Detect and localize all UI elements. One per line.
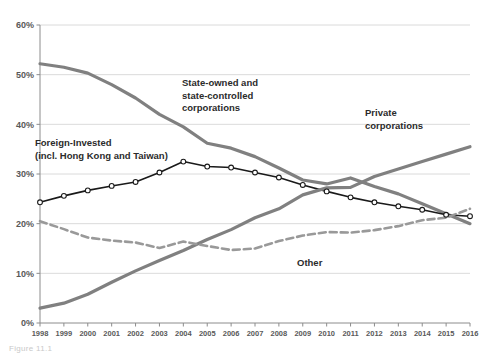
- x-tick-label: 2013: [390, 329, 407, 338]
- y-tick-label: 20%: [16, 219, 34, 229]
- line-chart: 0%10%20%30%40%50%60% 1998199920002001200…: [0, 0, 479, 357]
- x-tick-label: 2008: [271, 329, 288, 338]
- y-axis-tick-labels: 0%10%20%30%40%50%60%: [16, 20, 34, 328]
- x-tick-label: 2007: [247, 329, 264, 338]
- y-tick-label: 40%: [16, 120, 34, 130]
- x-tick-label: 2003: [151, 329, 168, 338]
- series-line-3: [40, 209, 470, 250]
- y-tick-label: 50%: [16, 70, 34, 80]
- x-tick-label: 2009: [294, 329, 311, 338]
- series-marker-1: [444, 212, 449, 217]
- x-tick-label: 2011: [342, 329, 358, 338]
- x-tick-label: 2006: [223, 329, 240, 338]
- y-tick-label: 10%: [16, 269, 34, 279]
- y-tick-label: 60%: [16, 20, 34, 30]
- series-marker-1: [61, 193, 66, 198]
- figure-caption: Figure 11.1: [9, 344, 52, 353]
- x-tick-label: 2000: [79, 329, 96, 338]
- state-owned-label: State-owned andstate-controlledcorporati…: [182, 77, 258, 113]
- series-marker-1: [348, 195, 353, 200]
- series-marker-1: [420, 207, 425, 212]
- series-marker-1: [133, 180, 138, 185]
- other-label: Other: [297, 257, 323, 268]
- series-marker-1: [205, 164, 210, 169]
- x-tick-label: 2002: [127, 329, 144, 338]
- x-tick-label: 2004: [175, 329, 193, 338]
- series-marker-1: [324, 189, 329, 194]
- x-tick-label: 2012: [366, 329, 383, 338]
- x-tick-label: 2015: [438, 329, 455, 338]
- x-tick-label: 1998: [32, 329, 49, 338]
- series-marker-1: [253, 170, 258, 175]
- series-marker-1: [300, 183, 305, 188]
- x-tick-label: 2001: [103, 329, 120, 338]
- x-axis-tick-labels: 1998199920002001200220032004200520062007…: [32, 329, 479, 338]
- y-tick-label: 30%: [16, 169, 34, 179]
- series-marker-1: [396, 204, 401, 209]
- private-corporations-label: Privatecorporations: [365, 107, 423, 131]
- x-tick-label: 2014: [414, 329, 432, 338]
- y-tick-label: 0%: [21, 318, 34, 328]
- x-tick-label: 2010: [318, 329, 335, 338]
- data-series-lines: [40, 64, 470, 308]
- series-marker-1: [181, 159, 186, 164]
- foreign-invested-label: Foreign-Invested(incl. Hong Kong and Tai…: [35, 137, 168, 161]
- series-marker-1: [276, 175, 281, 180]
- series-marker-1: [229, 165, 234, 170]
- series-marker-1: [38, 200, 43, 205]
- series-marker-1: [372, 200, 377, 205]
- series-marker-1: [157, 170, 162, 175]
- x-tick-label: 2005: [199, 329, 216, 338]
- series-marker-1: [85, 188, 90, 193]
- series-marker-1: [109, 184, 114, 189]
- data-series-markers: [38, 159, 473, 218]
- x-tick-label: 1999: [56, 329, 73, 338]
- x-tick-label: 2016: [462, 329, 479, 338]
- x-axis-tick-marks: [40, 323, 470, 327]
- figure-container: 0%10%20%30%40%50%60% 1998199920002001200…: [0, 0, 479, 357]
- series-marker-1: [468, 214, 473, 219]
